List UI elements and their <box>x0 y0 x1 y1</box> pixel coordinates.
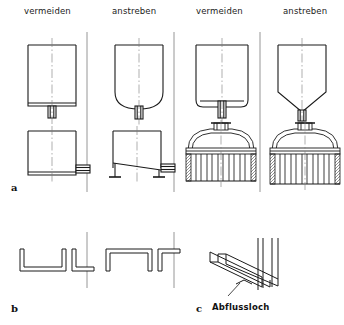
isometric-channel-with-drain-hole <box>210 238 278 296</box>
row-label-c: c <box>196 303 202 314</box>
row-label-b: b <box>11 303 18 314</box>
header-vermeiden-1: vermeiden <box>24 6 71 16</box>
technical-drawing <box>0 0 344 325</box>
channel-open-down-wide <box>106 249 152 271</box>
figure-sheet: vermeiden anstreben vermeiden anstreben … <box>0 0 344 325</box>
header-anstreben-2: anstreben <box>283 6 327 16</box>
tank-sloped-floor <box>109 131 175 177</box>
tank-flat-floor <box>28 131 90 175</box>
header-anstreben-1: anstreben <box>112 6 156 16</box>
angle-open-up <box>72 249 94 271</box>
header-vermeiden-2: vermeiden <box>196 6 243 16</box>
annotation-abflussloch: Abflussloch <box>212 302 270 312</box>
angle-open-down <box>158 249 180 271</box>
channel-open-up-wide <box>20 249 66 271</box>
row-label-a: a <box>11 182 17 193</box>
